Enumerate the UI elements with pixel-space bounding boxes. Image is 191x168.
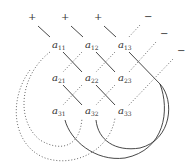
sarrus-diagram: + + + − − − a11 a12 a13 a21 a22 a23 a31 … <box>0 0 191 168</box>
entry-a12: a12 <box>85 39 99 51</box>
entry-a22: a22 <box>85 72 99 84</box>
entry-a32: a32 <box>85 105 99 117</box>
entry-a21: a21 <box>52 72 66 84</box>
minus-sign: − <box>160 28 168 39</box>
minus-signs: − − − <box>144 11 185 56</box>
entry-a33: a33 <box>118 105 132 117</box>
matrix-entries: a11 a12 a13 a21 a22 a23 a31 a32 a33 <box>52 39 132 117</box>
plus-signs: + + + <box>28 11 102 22</box>
entry-a11: a11 <box>52 39 66 51</box>
minus-sign: − <box>177 45 185 56</box>
plus-sign: + <box>94 11 102 22</box>
plus-sign: + <box>28 11 36 22</box>
entry-a13: a13 <box>118 39 132 51</box>
labels-layer: + + + − − − a11 a12 a13 a21 a22 a23 a31 … <box>0 0 191 168</box>
plus-sign: + <box>61 11 69 22</box>
entry-a31: a31 <box>52 105 66 117</box>
entry-a23: a23 <box>118 72 132 84</box>
minus-sign: − <box>144 11 152 22</box>
